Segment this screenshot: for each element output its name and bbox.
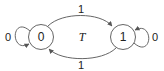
machine-name-label: T [79, 30, 87, 44]
state-0: 0 [29, 25, 54, 50]
transition-1-to-0-label: 1 [78, 59, 84, 71]
state-1-label: 1 [120, 30, 127, 44]
transition-1-to-0-arrow [49, 48, 116, 59]
state-diagram: 0 1 0 1 1 0 T [0, 0, 164, 71]
self-loop-0-label: 0 [5, 31, 11, 43]
state-0-label: 0 [38, 30, 45, 44]
transition-0-to-1-arrow [48, 16, 112, 27]
self-loop-1-arrow [134, 28, 149, 47]
self-loop-0-arrow [15, 27, 30, 46]
self-loop-1-label: 0 [152, 31, 158, 43]
transition-0-to-1-label: 1 [78, 3, 84, 15]
state-1: 1 [111, 25, 136, 50]
